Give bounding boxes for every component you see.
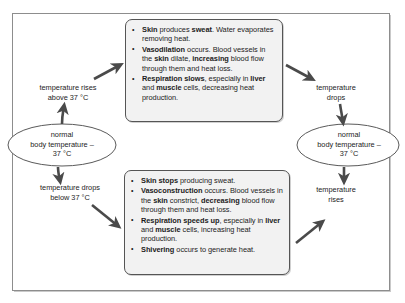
edge-label-line: temperature <box>300 185 372 195</box>
heat-gain-response-box: Skin stops producing sweat. Vasoconstruc… <box>124 170 290 275</box>
edge-label-temperature-rises: temperature rises <box>300 185 372 204</box>
node-label-line: body temperature – <box>8 140 116 150</box>
edge-label-line: drops <box>300 93 372 103</box>
node-label-line: normal <box>8 130 116 140</box>
diagram-canvas: Skin produces sweat. Water evaporates re… <box>0 0 405 303</box>
list-item: Skin stops producing sweat. <box>130 176 283 185</box>
heat-gain-bullet-list: Skin stops producing sweat. Vasoconstruc… <box>130 176 283 254</box>
edge-label-line: temperature drops <box>18 183 122 193</box>
node-label-line: body temperature – <box>297 140 401 150</box>
list-item: Vasoconstruction occurs. Blood vessels i… <box>130 186 283 214</box>
edge-label-line: above 37 °C <box>20 93 116 103</box>
node-label-line: 37 °C <box>297 149 401 159</box>
heat-loss-bullet-list: Skin produces sweat. Water evaporates re… <box>131 25 276 102</box>
edge-label-temperature-drops: temperature drops <box>300 83 372 102</box>
arrow-to-heat-loss-box <box>94 65 120 79</box>
edge-label-line: temperature <box>300 83 372 93</box>
arrow-from-heat-loss-box <box>286 65 312 79</box>
node-left-ellipse-label: normal body temperature – 37 °C <box>8 130 116 159</box>
edge-label-line: rises <box>300 195 372 205</box>
list-item: Skin produces sweat. Water evaporates re… <box>131 25 276 44</box>
node-label-line: 37 °C <box>8 149 116 159</box>
edge-label-temperature-rises-above: temperature rises above 37 °C <box>20 83 116 102</box>
arrow-left-ellipse-down <box>58 167 60 181</box>
list-item: Respiration slows, especially in liver a… <box>131 74 276 102</box>
edge-label-line: below 37 °C <box>18 193 122 203</box>
node-label-line: normal <box>297 130 401 140</box>
edge-label-temperature-drops-below: temperature drops below 37 °C <box>18 183 122 202</box>
heat-loss-response-box: Skin produces sweat. Water evaporates re… <box>125 19 283 122</box>
edge-label-line: temperature rises <box>20 83 116 93</box>
list-item: Respiration speeds up, especially in liv… <box>130 216 283 244</box>
arrow-from-heat-gain-box <box>296 222 322 243</box>
arrow-to-heat-gain-box <box>92 205 118 226</box>
list-item: Shivering occurs to generate heat. <box>130 245 283 254</box>
node-right-ellipse-label: normal body temperature – 37 °C <box>297 130 401 159</box>
arrow-right-down <box>340 104 343 122</box>
arrow-left-up <box>62 106 64 124</box>
list-item: Vasodilation occurs. Blood vessels in th… <box>131 45 276 73</box>
